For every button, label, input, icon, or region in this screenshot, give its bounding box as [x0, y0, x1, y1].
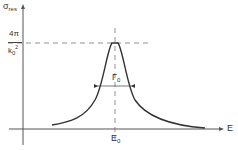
fraction-bar	[8, 42, 22, 43]
width-label: Γ0	[112, 73, 120, 83]
y-axis-arrow-icon	[21, 4, 25, 9]
x-axis-arrow-icon	[219, 127, 224, 131]
x-axis-label: E	[227, 124, 233, 133]
y-axis-label: σres	[3, 2, 17, 12]
arrow-right-icon	[94, 84, 98, 88]
peak-value-denominator: k02	[8, 45, 18, 56]
resonance-curve	[52, 43, 205, 128]
resonance-diagram: σres 4π k02 E0 E Γ0	[0, 0, 238, 150]
center-energy-label: E0	[111, 134, 120, 144]
arrow-left-icon	[131, 84, 135, 88]
peak-value-numerator: 4π	[9, 30, 19, 38]
